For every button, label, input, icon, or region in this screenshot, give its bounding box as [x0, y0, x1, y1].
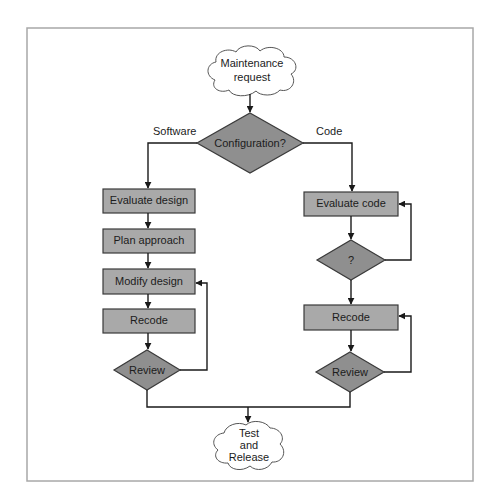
branch-label-code: Code — [316, 125, 342, 137]
branch-label-software: Software — [153, 125, 196, 137]
process-modify-design-label: Modify design — [115, 275, 183, 287]
start-label-line2: request — [234, 71, 271, 83]
decision-software-review-label: Review — [129, 364, 165, 376]
start-terminal-maintenance-request: Maintenance request — [208, 46, 296, 96]
start-label-line1: Maintenance — [221, 57, 284, 69]
decision-configuration: Configuration? — [197, 113, 303, 173]
decision-code-check: ? — [317, 240, 385, 280]
process-evaluate-code-label: Evaluate code — [316, 197, 386, 209]
process-code-recode: Recode — [304, 305, 398, 330]
end-terminal-test-and-release: Test and Release — [214, 421, 284, 469]
connector-code-branch — [303, 143, 352, 191]
decision-code-check-label: ? — [348, 254, 354, 266]
process-evaluate-design-label: Evaluate design — [110, 194, 188, 206]
process-software-recode-label: Recode — [130, 314, 168, 326]
process-software-recode: Recode — [103, 309, 195, 333]
flowchart-canvas: Maintenance request Configuration? Softw… — [0, 0, 500, 501]
process-evaluate-code: Evaluate code — [304, 192, 398, 216]
decision-software-review: Review — [114, 350, 180, 390]
process-plan-approach: Plan approach — [103, 229, 195, 253]
end-label-line1: Test — [239, 427, 259, 439]
process-modify-design: Modify design — [103, 269, 195, 294]
process-code-recode-label: Recode — [332, 311, 370, 323]
decision-code-review-label: Review — [332, 366, 368, 378]
process-evaluate-design: Evaluate design — [103, 189, 195, 213]
end-label-line2: and — [240, 439, 258, 451]
process-plan-approach-label: Plan approach — [114, 234, 185, 246]
end-label-line3: Release — [229, 451, 269, 463]
decision-configuration-label: Configuration? — [214, 137, 286, 149]
connector-software-branch — [148, 143, 197, 188]
decision-code-review: Review — [316, 352, 384, 392]
connector-merge-line — [147, 390, 350, 407]
